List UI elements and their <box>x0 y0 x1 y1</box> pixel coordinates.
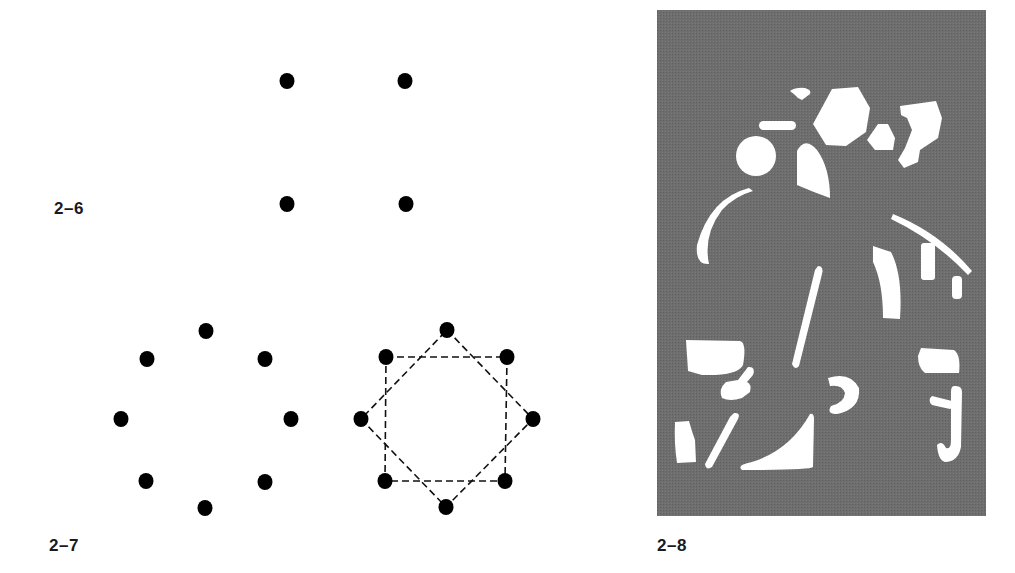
dot <box>258 351 273 367</box>
dot <box>378 473 393 489</box>
dot <box>199 323 214 339</box>
fragment <box>921 243 935 280</box>
dot <box>284 411 299 427</box>
dot <box>498 473 513 489</box>
dot <box>439 499 454 515</box>
fragment <box>736 136 776 176</box>
fragment <box>918 348 959 373</box>
figure-canvas <box>0 0 1015 573</box>
dot <box>526 411 541 427</box>
dot <box>280 196 295 212</box>
dot <box>198 500 213 516</box>
dot <box>440 322 455 338</box>
dot <box>140 351 155 367</box>
dot <box>354 411 369 427</box>
figure-2-7-star-dots <box>354 322 541 515</box>
dot <box>139 473 154 489</box>
dot <box>399 196 414 212</box>
dot <box>114 411 129 427</box>
dot <box>280 73 295 89</box>
figure-2-7-dot-circle <box>114 323 299 516</box>
dot <box>398 73 413 89</box>
fragment <box>759 121 796 130</box>
dot <box>379 349 394 365</box>
fragment <box>686 340 744 375</box>
fragment <box>952 276 962 299</box>
dot <box>258 474 273 490</box>
figure-2-6-dots <box>280 73 414 212</box>
dot <box>500 349 515 365</box>
